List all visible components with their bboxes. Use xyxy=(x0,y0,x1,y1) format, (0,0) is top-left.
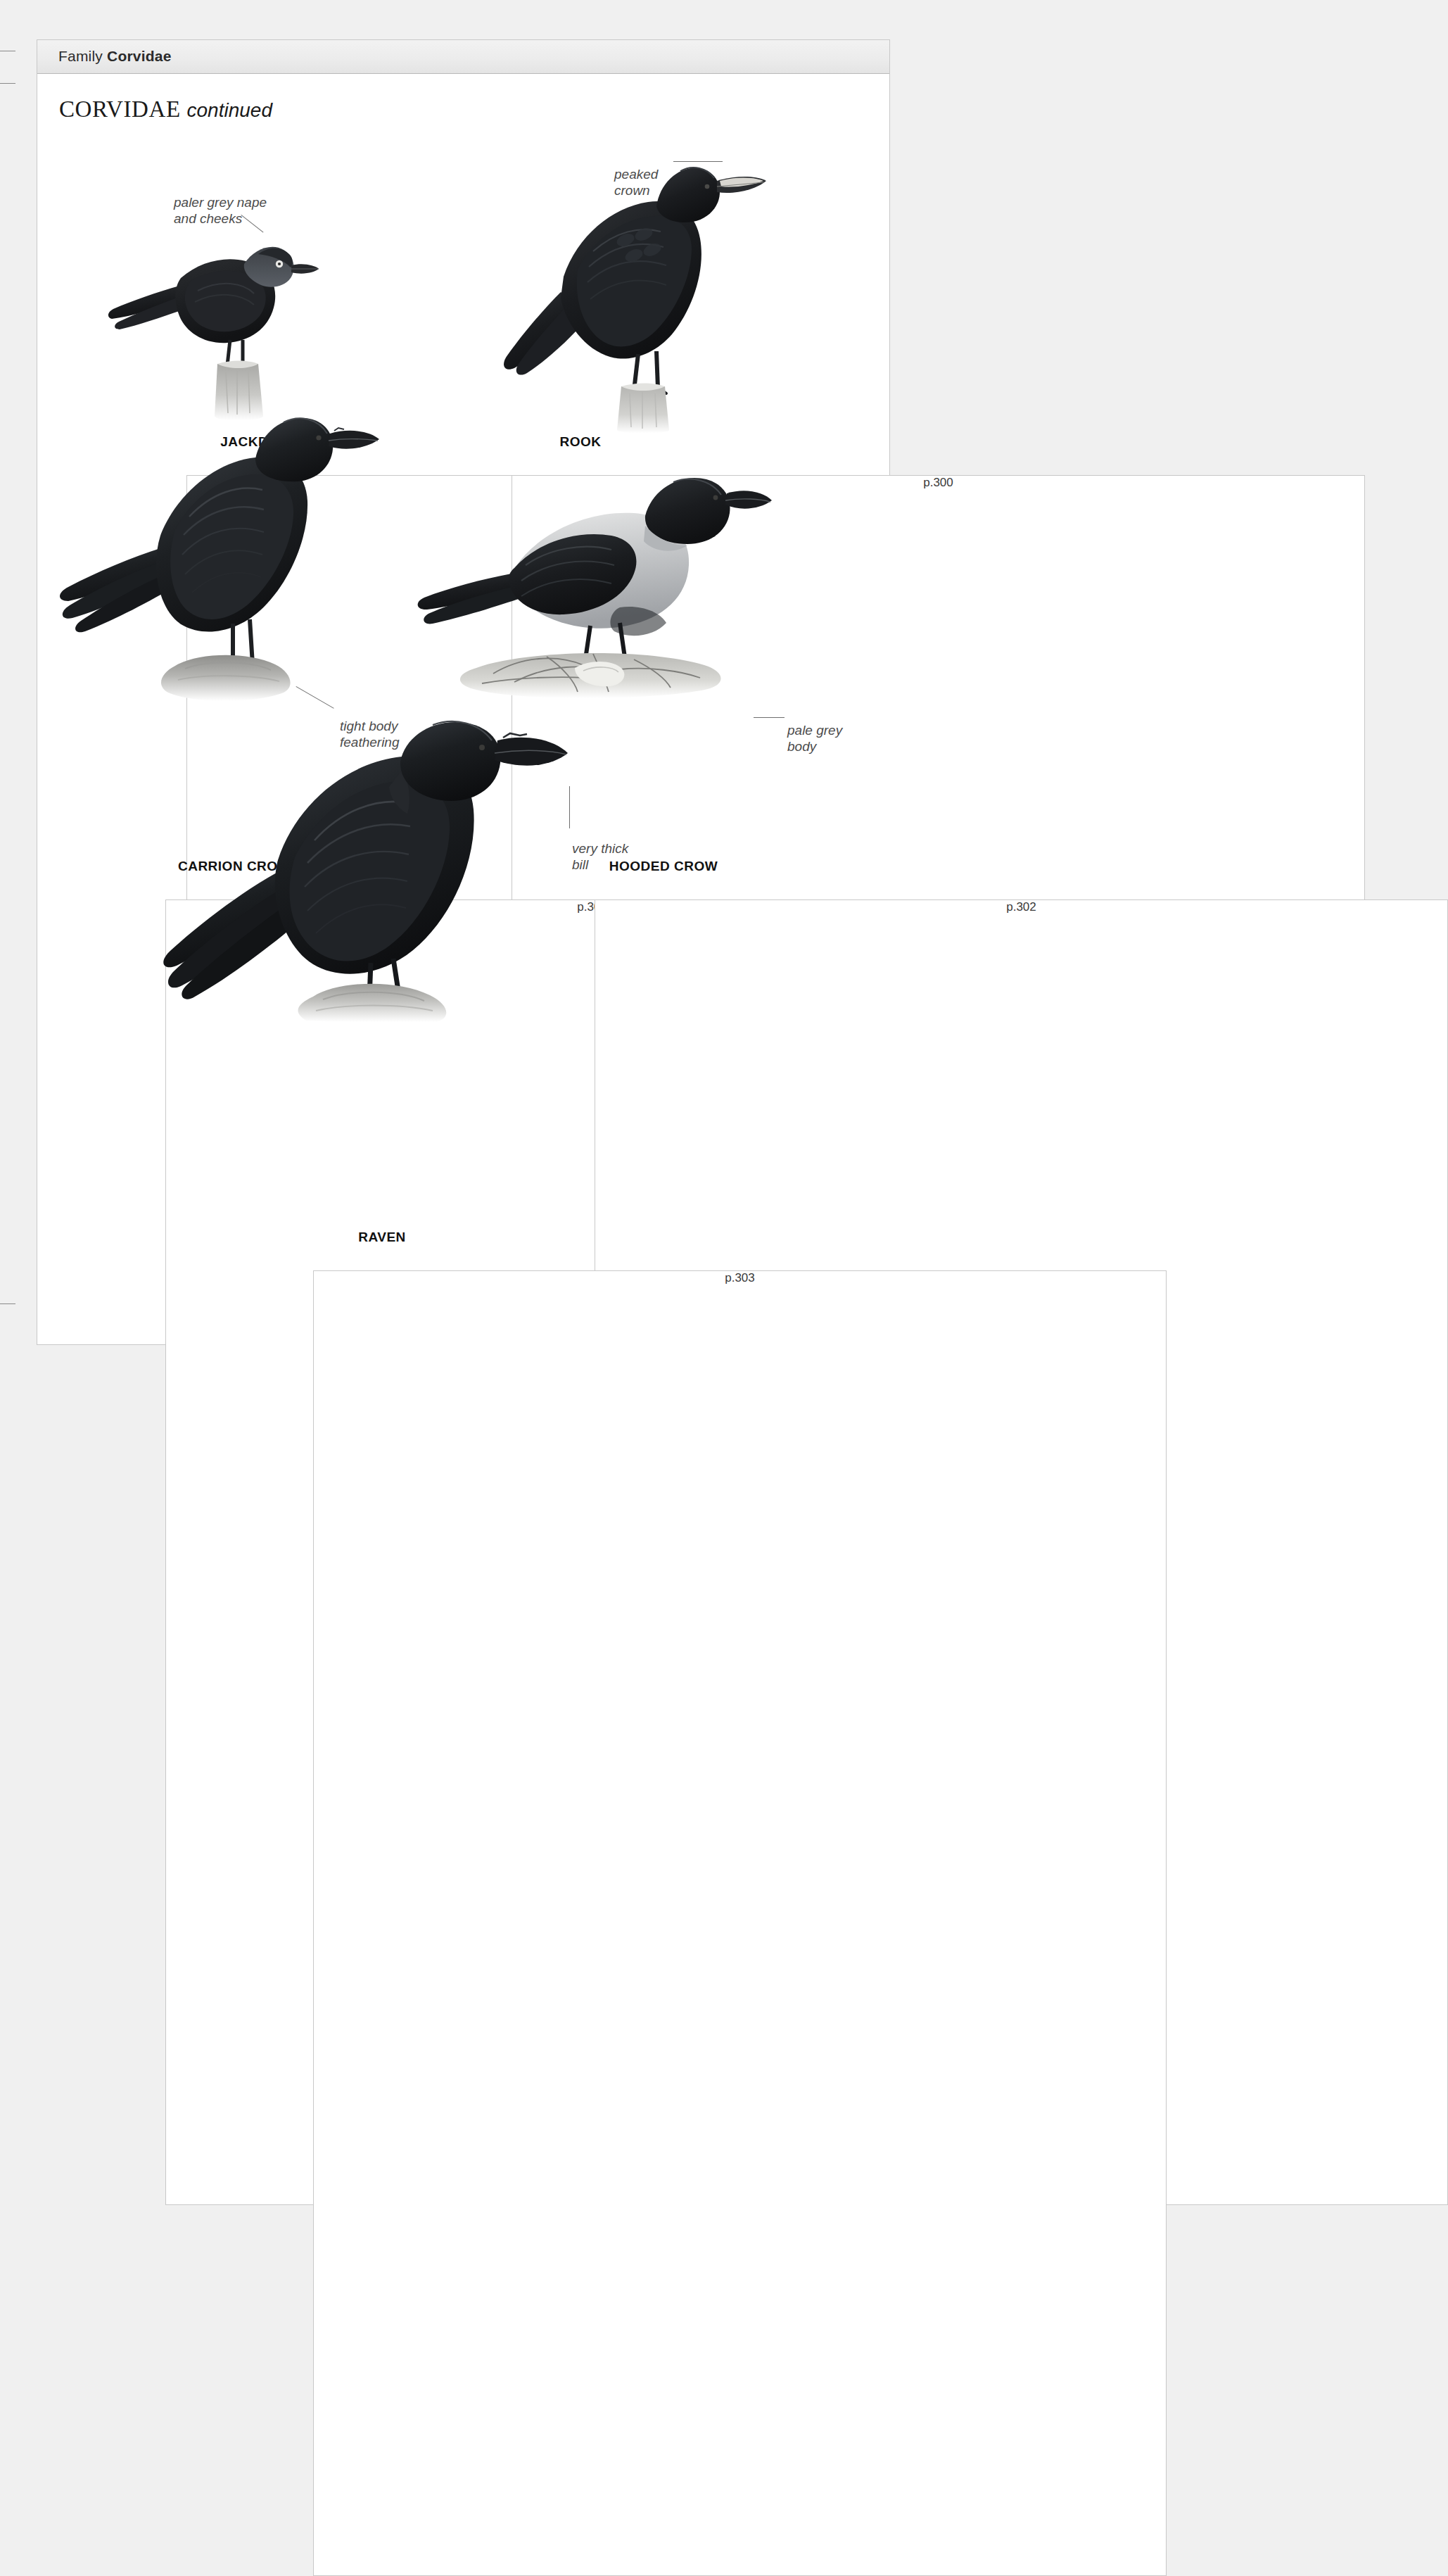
annotation-paler-grey-nape: paler grey nape and cheeks xyxy=(174,179,300,227)
leader-line-peaked-crown xyxy=(673,161,723,162)
species-name-rook: ROOK xyxy=(475,434,686,450)
carrion-crow-illustration xyxy=(44,403,396,705)
hooded-crow-illustration xyxy=(409,462,775,716)
page-sheet: Family Corvidae CORVIDAE continued xyxy=(37,39,890,1345)
leader-line-pale-grey-body xyxy=(754,717,785,718)
annotation-paler-grey-nape-text: paler grey nape and cheeks xyxy=(174,195,267,225)
caption-raven: RAVEN p.303 xyxy=(277,1230,488,1245)
jackdaw-illustration xyxy=(92,202,331,434)
annotation-peaked-crown-text: peaked crown xyxy=(614,167,658,197)
annotation-very-thick-bill-text: very thick bill xyxy=(572,841,628,871)
annotation-peaked-crown: peaked crown xyxy=(614,151,706,198)
species-name-raven: RAVEN xyxy=(277,1230,488,1245)
leader-line-very-thick-bill xyxy=(569,786,570,828)
crop-mark-bottom xyxy=(0,1303,15,1304)
crop-mark-top-2 xyxy=(0,83,15,84)
annotation-pale-grey-body: pale grey body xyxy=(787,707,879,755)
annotation-very-thick-bill: very thick bill xyxy=(572,826,671,873)
caption-rook: ROOK p.300 xyxy=(475,434,686,450)
species-page-raven: p.303 xyxy=(313,1270,1167,2576)
illustration-plate: paler grey nape and cheeks JACKDAW p.299 xyxy=(37,40,889,1344)
raven-illustration xyxy=(143,726,607,1022)
annotation-pale-grey-body-text: pale grey body xyxy=(787,723,842,753)
